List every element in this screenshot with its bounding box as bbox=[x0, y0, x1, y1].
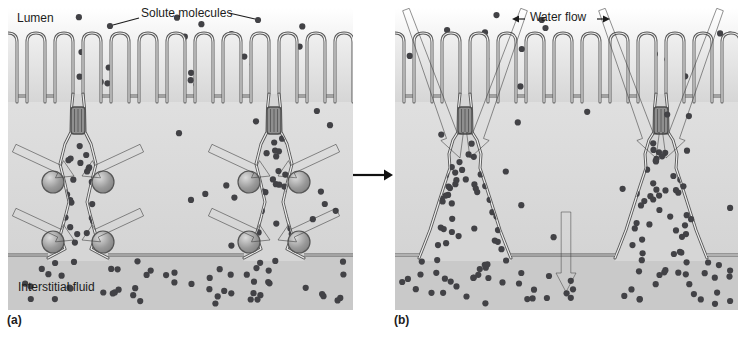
interstitial-fluid-label: Interstitial fluid bbox=[18, 281, 95, 294]
panel-transition-arrow-icon bbox=[351, 167, 395, 183]
solute-molecules-label: Solute molecules bbox=[141, 7, 232, 20]
panel-b-figure bbox=[395, 8, 738, 310]
transport-sphere bbox=[92, 231, 114, 253]
tight-junction bbox=[267, 107, 281, 134]
transport-sphere bbox=[288, 231, 310, 253]
figure: Lumen Solute molecules Water flow Inters… bbox=[0, 0, 745, 342]
transport-sphere bbox=[238, 171, 260, 193]
panel-a-figure bbox=[8, 8, 353, 310]
transport-sphere bbox=[42, 171, 64, 193]
transport-sphere bbox=[92, 171, 114, 193]
water-flow-label: Water flow bbox=[530, 11, 586, 24]
caption-a: (a) bbox=[7, 314, 22, 327]
tight-junction bbox=[458, 107, 472, 134]
tight-junction bbox=[71, 107, 85, 134]
tight-junction bbox=[654, 107, 668, 134]
transport-sphere bbox=[42, 231, 64, 253]
transport-sphere bbox=[288, 171, 310, 193]
caption-b: (b) bbox=[394, 314, 409, 327]
lumen-label: Lumen bbox=[17, 12, 54, 25]
transport-sphere bbox=[238, 231, 260, 253]
